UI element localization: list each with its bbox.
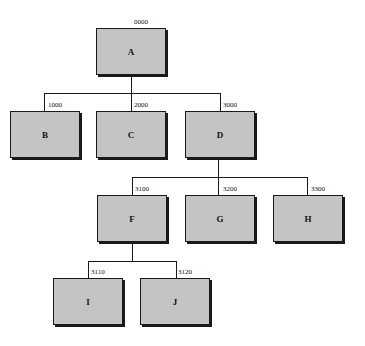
connector-f-drop (132, 177, 133, 195)
node-label: F (129, 214, 135, 224)
node-label: I (86, 297, 90, 307)
connector-d-stem (218, 158, 219, 177)
connector-h-drop (307, 177, 308, 195)
node-box-f: F (97, 195, 167, 242)
node-code: 3100 (135, 186, 149, 193)
connector-g-drop (218, 177, 219, 195)
node-label: J (173, 297, 178, 307)
connector-level3-bar (88, 261, 177, 262)
node-label: G (216, 214, 223, 224)
connector-c-drop (131, 93, 132, 111)
node-code: 2000 (134, 102, 148, 109)
node-code: 3300 (311, 186, 325, 193)
node-code: 0000 (134, 19, 148, 26)
node-box-g: G (185, 195, 255, 242)
node-box-i: I (53, 278, 123, 325)
connector-j-drop (176, 261, 177, 278)
node-label: D (217, 130, 224, 140)
connector-a-stem (131, 75, 132, 93)
node-label: C (128, 130, 135, 140)
node-code: 3120 (178, 269, 192, 276)
connector-level1-bar (44, 93, 221, 94)
node-code: 1000 (48, 102, 62, 109)
node-box-c: C (96, 111, 166, 158)
node-code: 3110 (91, 269, 105, 276)
connector-i-drop (88, 261, 89, 278)
connector-level2-bar (132, 177, 308, 178)
node-code: 3200 (223, 186, 237, 193)
node-box-d: D (185, 111, 255, 158)
node-label: B (42, 130, 48, 140)
node-code: 3000 (223, 102, 237, 109)
node-box-h: H (273, 195, 343, 242)
node-box-b: B (10, 111, 80, 158)
node-label: A (128, 47, 135, 57)
node-label: H (304, 214, 311, 224)
node-box-a: A (96, 28, 166, 75)
connector-b-drop (44, 93, 45, 111)
connector-f-stem (132, 242, 133, 261)
node-box-j: J (140, 278, 210, 325)
connector-d-drop (220, 93, 221, 111)
